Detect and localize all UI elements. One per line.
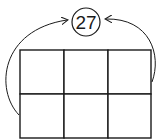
grid-cell-r2c3 — [108, 94, 151, 138]
grid — [20, 50, 151, 138]
circle-value: 27 — [75, 12, 96, 33]
grid-cell-r1c1 — [20, 50, 64, 94]
diagram-canvas: 27 — [0, 0, 158, 140]
grid-cell-r1c2 — [64, 50, 108, 94]
grid-cell-r1c3 — [108, 50, 151, 94]
grid-cell-r2c2 — [64, 94, 108, 138]
grid-cell-r2c1 — [20, 94, 64, 138]
